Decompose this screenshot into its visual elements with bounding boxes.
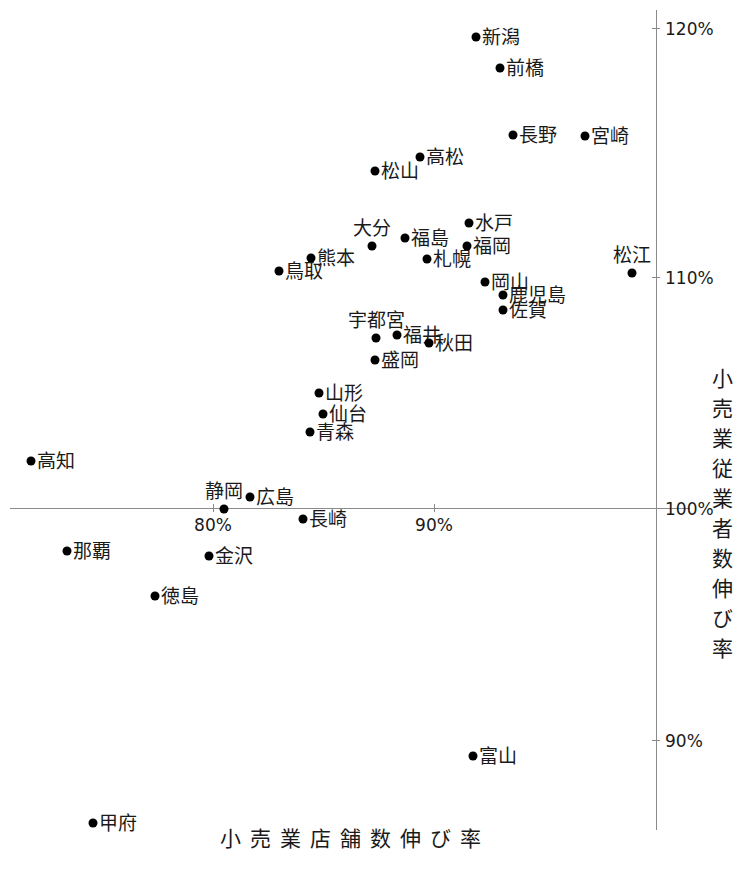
data-point[interactable] [423, 255, 432, 264]
data-point-label: 金沢 [215, 547, 253, 566]
data-point-label: 甲府 [99, 814, 137, 833]
y-axis-tick [652, 28, 660, 29]
data-point[interactable] [499, 306, 508, 315]
x-axis-title: 小売業店舗数伸び率 [220, 822, 490, 852]
data-point[interactable] [372, 334, 381, 343]
data-point-label: 札幌 [433, 250, 471, 269]
data-point-label: 新潟 [482, 28, 520, 47]
data-point[interactable] [472, 33, 481, 42]
data-point[interactable] [469, 752, 478, 761]
data-point-label: 長崎 [309, 510, 347, 529]
data-point[interactable] [425, 339, 434, 348]
data-point[interactable] [481, 278, 490, 287]
data-point-label: 広島 [256, 488, 294, 507]
data-point[interactable] [275, 267, 284, 276]
y-axis-tick [652, 740, 660, 741]
data-point-label: 青森 [316, 423, 354, 442]
data-point[interactable] [205, 552, 214, 561]
data-point-label: 富山 [479, 747, 517, 766]
data-point-label: 松江 [613, 246, 651, 265]
data-point[interactable] [315, 389, 324, 398]
y-axis-tick-label: 120% [665, 19, 714, 39]
data-point[interactable] [509, 131, 518, 140]
data-point[interactable] [581, 132, 590, 141]
data-point[interactable] [499, 291, 508, 300]
data-point[interactable] [496, 64, 505, 73]
data-point[interactable] [220, 505, 229, 514]
x-axis-tick [213, 504, 214, 512]
data-point[interactable] [151, 592, 160, 601]
data-point-label: 盛岡 [381, 351, 419, 370]
data-point-label: 福島 [411, 229, 449, 248]
y-axis-tick [652, 277, 660, 278]
data-point-label: 秋田 [435, 334, 473, 353]
data-point-label: 佐賀 [509, 301, 547, 320]
data-point[interactable] [299, 515, 308, 524]
data-point[interactable] [319, 410, 328, 419]
data-point[interactable] [368, 242, 377, 251]
data-point[interactable] [401, 234, 410, 243]
y-axis-title: 小売業従業者数伸び率 [706, 368, 736, 668]
data-point[interactable] [246, 493, 255, 502]
data-point[interactable] [89, 819, 98, 828]
data-point-label: 宇都宮 [348, 311, 405, 330]
data-point-label: 大分 [353, 219, 391, 238]
x-axis-line [10, 508, 690, 509]
data-point[interactable] [628, 269, 637, 278]
data-point-label: 前橋 [506, 59, 544, 78]
data-point-label: 松山 [381, 162, 419, 181]
data-point-label: 水戸 [475, 214, 513, 233]
data-point[interactable] [393, 331, 402, 340]
data-point-label: 那覇 [73, 542, 111, 561]
x-axis-tick-label: 80% [194, 515, 232, 535]
data-point[interactable] [465, 219, 474, 228]
x-axis-tick-label: 90% [415, 515, 453, 535]
data-point[interactable] [27, 457, 36, 466]
data-point-label: 静岡 [205, 482, 243, 501]
data-point-label: 徳島 [161, 587, 199, 606]
data-point-label: 宮崎 [591, 127, 629, 146]
data-point-label: 高松 [426, 148, 464, 167]
y-axis-tick-label: 90% [665, 731, 703, 751]
data-point-label: 福岡 [473, 237, 511, 256]
data-point[interactable] [306, 428, 315, 437]
data-point-label: 高知 [37, 452, 75, 471]
y-axis-line [656, 10, 657, 830]
data-point[interactable] [63, 547, 72, 556]
data-point-label: 山形 [325, 384, 363, 403]
data-point-label: 鳥取 [285, 262, 323, 281]
data-point[interactable] [371, 356, 380, 365]
x-axis-tick [434, 504, 435, 512]
data-point[interactable] [371, 167, 380, 176]
scatter-plot: 80%90% 120%110%100%90% 新潟前橋長野宮崎高松松山水戸福島大… [0, 0, 756, 873]
data-point-label: 長野 [519, 126, 557, 145]
y-axis-tick-label: 110% [665, 268, 714, 288]
